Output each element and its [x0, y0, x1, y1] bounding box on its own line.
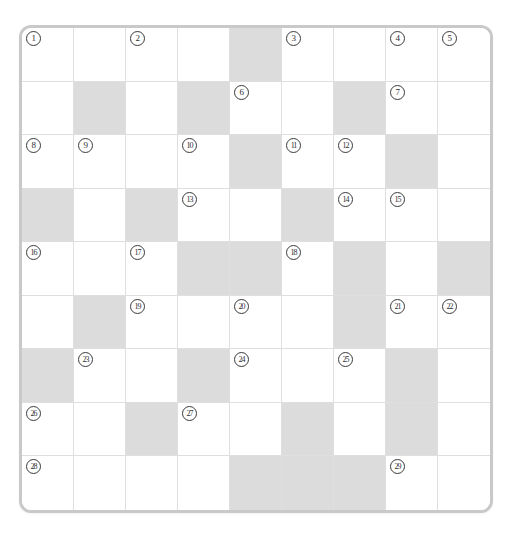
grid-cell[interactable]: 1 [22, 28, 74, 82]
grid-cell[interactable]: 27 [178, 403, 230, 457]
grid-cell[interactable]: 16 [22, 242, 74, 296]
clue-number: 17 [130, 245, 145, 260]
grid-cell[interactable]: 19 [126, 296, 178, 350]
grid-cell[interactable]: 21 [386, 296, 438, 350]
grid-cell[interactable] [282, 296, 334, 350]
grid-cell[interactable]: 15 [386, 189, 438, 243]
grid-cell[interactable] [334, 28, 386, 82]
grid-cell[interactable]: 23 [74, 349, 126, 403]
grid-cell[interactable] [178, 28, 230, 82]
grid-cell[interactable]: 25 [334, 349, 386, 403]
clue-number: 13 [182, 192, 197, 207]
grid-cell[interactable]: 28 [22, 456, 74, 510]
grid-cell[interactable] [74, 242, 126, 296]
crossword-grid[interactable]: 1234567891011121314151617181920212223242… [22, 28, 490, 510]
grid-cell-blocked [282, 189, 334, 243]
clue-number: 19 [130, 299, 145, 314]
grid-cell[interactable] [22, 296, 74, 350]
clue-number: 23 [78, 352, 93, 367]
grid-cell-blocked [334, 456, 386, 510]
grid-cell[interactable] [282, 349, 334, 403]
clue-number: 28 [26, 459, 41, 474]
grid-cell[interactable]: 9 [74, 135, 126, 189]
grid-cell[interactable] [438, 189, 490, 243]
clue-number: 22 [442, 299, 457, 314]
grid-cell[interactable]: 26 [22, 403, 74, 457]
grid-cell[interactable]: 11 [282, 135, 334, 189]
grid-cell[interactable] [126, 456, 178, 510]
grid-cell[interactable] [126, 349, 178, 403]
grid-cell[interactable] [438, 456, 490, 510]
grid-cell[interactable] [74, 456, 126, 510]
grid-cell[interactable] [438, 349, 490, 403]
grid-cell-blocked [334, 82, 386, 136]
grid-cell[interactable] [438, 82, 490, 136]
clue-number: 10 [182, 138, 197, 153]
clue-number: 24 [234, 352, 249, 367]
clue-number: 14 [338, 192, 353, 207]
grid-cell-blocked [438, 242, 490, 296]
grid-cell[interactable]: 3 [282, 28, 334, 82]
grid-cell[interactable] [438, 135, 490, 189]
grid-cell[interactable] [282, 82, 334, 136]
clue-number: 12 [338, 138, 353, 153]
grid-cell-blocked [386, 349, 438, 403]
grid-cell[interactable]: 6 [230, 82, 282, 136]
clue-number: 18 [286, 245, 301, 260]
grid-cell[interactable]: 29 [386, 456, 438, 510]
grid-cell[interactable] [74, 28, 126, 82]
grid-cell-blocked [386, 135, 438, 189]
grid-cell[interactable] [178, 296, 230, 350]
grid-cell[interactable] [230, 189, 282, 243]
clue-number: 11 [286, 138, 301, 153]
grid-cell-blocked [386, 403, 438, 457]
grid-cell-blocked [126, 189, 178, 243]
grid-cell[interactable] [126, 82, 178, 136]
clue-number: 2 [130, 31, 145, 46]
grid-cell[interactable] [126, 135, 178, 189]
grid-cell[interactable]: 20 [230, 296, 282, 350]
grid-cell-blocked [334, 296, 386, 350]
grid-cell[interactable]: 7 [386, 82, 438, 136]
grid-cell-blocked [74, 82, 126, 136]
crossword-puzzle: 1234567891011121314151617181920212223242… [0, 0, 517, 535]
grid-cell-blocked [178, 242, 230, 296]
grid-cell[interactable]: 5 [438, 28, 490, 82]
grid-cell[interactable]: 24 [230, 349, 282, 403]
grid-cell[interactable]: 10 [178, 135, 230, 189]
clue-number: 16 [26, 245, 41, 260]
grid-cell[interactable] [386, 242, 438, 296]
clue-number: 21 [390, 299, 405, 314]
grid-cell[interactable] [22, 82, 74, 136]
grid-cell[interactable]: 13 [178, 189, 230, 243]
grid-cell[interactable] [74, 189, 126, 243]
clue-number: 8 [26, 138, 41, 153]
grid-cell[interactable]: 12 [334, 135, 386, 189]
grid-cell-blocked [74, 296, 126, 350]
grid-cell[interactable]: 18 [282, 242, 334, 296]
grid-cell[interactable]: 4 [386, 28, 438, 82]
grid-cell[interactable]: 14 [334, 189, 386, 243]
grid-cell-blocked [178, 349, 230, 403]
grid-cell[interactable] [334, 403, 386, 457]
grid-cell-blocked [230, 135, 282, 189]
clue-number: 29 [390, 459, 405, 474]
grid-cell-blocked [282, 456, 334, 510]
grid-cell[interactable]: 2 [126, 28, 178, 82]
grid-cell[interactable] [178, 456, 230, 510]
grid-cell[interactable] [74, 403, 126, 457]
grid-cell[interactable] [438, 403, 490, 457]
grid-cell-blocked [230, 242, 282, 296]
grid-cell-blocked [22, 189, 74, 243]
grid-cell[interactable]: 8 [22, 135, 74, 189]
grid-cell[interactable]: 17 [126, 242, 178, 296]
clue-number: 7 [390, 85, 405, 100]
clue-number: 20 [234, 299, 249, 314]
clue-number: 6 [234, 85, 249, 100]
grid-cell[interactable]: 22 [438, 296, 490, 350]
grid-cell-blocked [282, 403, 334, 457]
clue-number: 4 [390, 31, 405, 46]
grid-cell[interactable] [230, 403, 282, 457]
clue-number: 26 [26, 406, 41, 421]
clue-number: 3 [286, 31, 301, 46]
